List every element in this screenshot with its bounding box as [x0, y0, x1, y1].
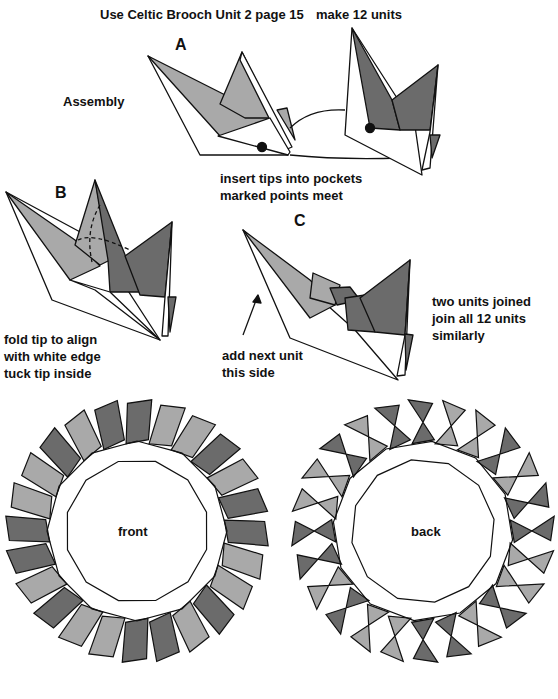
unit-a-right	[345, 28, 440, 175]
step-c-arrow-note-1: add next unit	[222, 347, 303, 364]
step-b-caption-3: tuck tip inside	[4, 365, 91, 382]
step-a-caption-1: insert tips into pockets	[220, 170, 362, 187]
step-c-label: C	[294, 212, 306, 229]
front-label: front	[118, 523, 148, 540]
back-label: back	[411, 523, 441, 540]
step-a-caption-2: marked points meet	[220, 187, 343, 204]
units-note: make 12 units	[316, 6, 402, 23]
step-c-side-note-1: two units joined	[432, 293, 531, 310]
step-b-caption-1: fold tip to align	[4, 331, 97, 348]
step-c-side-note-2: join all 12 units	[432, 310, 526, 327]
unit-b	[6, 180, 176, 340]
step-c-side-note-3: similarly	[432, 327, 485, 344]
step-b-caption-2: with white edge	[4, 348, 101, 365]
step-b-label: B	[55, 184, 67, 201]
step-c-arrow-note-2: this side	[222, 364, 275, 381]
page-title: Use Celtic Brooch Unit 2 page 15	[100, 6, 304, 23]
unit-a-left	[148, 52, 295, 155]
assembly-label: Assembly	[63, 93, 124, 110]
step-a-label: A	[175, 36, 187, 53]
